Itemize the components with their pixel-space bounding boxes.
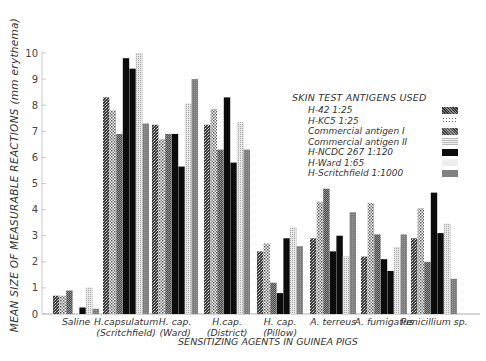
bar	[53, 296, 59, 314]
bar	[178, 167, 184, 314]
x-category-label: Saline	[62, 316, 91, 327]
x-category-labels: SalineH.capsulatum(Scritchfield)H. cap.(…	[62, 316, 468, 338]
bar	[217, 150, 223, 314]
bar-group	[204, 97, 250, 314]
legend-swatch	[442, 107, 458, 114]
bar	[204, 125, 210, 314]
bar	[381, 259, 387, 314]
bar	[350, 212, 356, 314]
y-tick-label: 6	[32, 152, 38, 163]
x-category-label: H. cap.	[159, 316, 192, 327]
x-category-label: H. cap.	[264, 316, 297, 327]
legend-swatch	[442, 159, 458, 166]
legend-label: H-KC5 1:25	[308, 116, 359, 126]
legend: SKIN TEST ANTIGENS USED H-42 1:25H-KC5 1…	[292, 92, 482, 179]
bar	[211, 109, 217, 314]
bar-group	[310, 189, 356, 314]
bar	[277, 293, 283, 314]
bar-group	[103, 53, 149, 314]
bar	[444, 224, 450, 314]
bar	[283, 238, 289, 314]
bar	[93, 309, 99, 314]
bar-group	[257, 228, 303, 314]
bar	[172, 134, 178, 314]
bar	[330, 251, 336, 314]
x-category-label: H.capsulatum	[94, 316, 158, 327]
bar	[152, 125, 158, 314]
bar	[374, 234, 380, 314]
legend-label: H-NCDC 267 1:120	[308, 147, 393, 157]
bar-group	[53, 288, 99, 314]
bar	[244, 150, 250, 314]
bar	[129, 69, 135, 314]
legend-label: H-Ward 1:65	[308, 158, 364, 168]
bar	[264, 244, 270, 314]
bar	[270, 283, 276, 314]
legend-item: H-KC5 1:25	[292, 116, 458, 127]
legend-item: H-NCDC 267 1:120	[292, 147, 458, 158]
legend-item: H-Ward 1:65	[292, 158, 458, 169]
bar	[123, 58, 129, 314]
bar	[387, 271, 393, 314]
bar	[394, 247, 400, 314]
y-tick-label: 9	[32, 74, 38, 85]
y-tick-label: 0	[32, 309, 38, 320]
bar	[401, 234, 407, 314]
legend-item: H-Scritchfield 1:1000	[292, 168, 458, 179]
y-tick-label: 3	[32, 230, 38, 241]
bar	[159, 139, 165, 314]
x-category-label: Penicillium sp.	[401, 316, 468, 327]
legend-label: H-Scritchfield 1:1000	[308, 168, 403, 178]
bar-group	[361, 203, 407, 314]
bar	[224, 97, 230, 314]
x-category-label: A. terreus	[309, 316, 356, 327]
bar	[143, 123, 149, 314]
bar	[418, 208, 424, 314]
bar	[136, 53, 142, 314]
y-tick-label: 10	[25, 48, 38, 59]
bar	[451, 279, 457, 314]
legend-label: Commercial antigen I	[308, 126, 405, 136]
legend-item: H-42 1:25	[292, 105, 458, 116]
y-axis-label: MEAN SIZE OF MEASURABLE REACTIONS (mm er…	[4, 40, 24, 310]
y-tick-label: 1	[32, 282, 38, 293]
y-tick-label: 8	[32, 100, 38, 111]
bar	[437, 233, 443, 314]
bar	[323, 189, 329, 314]
legend-item: Commercial antigen I	[292, 126, 458, 137]
bar	[368, 203, 374, 314]
y-tick-label: 2	[32, 256, 38, 267]
y-tick-label: 7	[32, 126, 38, 137]
bar-group	[411, 193, 457, 314]
bar	[237, 122, 243, 314]
bar	[343, 257, 349, 314]
bar-chart: 012345678910 SalineH.capsulatum(Scritchf…	[0, 0, 486, 361]
bar	[431, 193, 437, 314]
y-tick-label: 5	[32, 178, 38, 189]
bar	[185, 104, 191, 314]
bar	[66, 291, 72, 314]
legend-title: SKIN TEST ANTIGENS USED	[292, 92, 482, 103]
bar	[86, 288, 92, 314]
legend-swatch	[442, 138, 458, 145]
x-category-label: H.cap.	[212, 316, 242, 327]
bar	[110, 110, 116, 314]
legend-label: Commercial antigen II	[308, 137, 407, 147]
legend-swatch	[442, 117, 458, 124]
legend-items: H-42 1:25H-KC5 1:25Commercial antigen IC…	[292, 105, 482, 179]
bar	[297, 246, 303, 314]
bar	[192, 79, 198, 314]
bar	[310, 238, 316, 314]
bar	[116, 134, 122, 314]
bar	[79, 307, 85, 314]
legend-swatch	[442, 170, 458, 177]
bar	[60, 296, 66, 314]
bar	[336, 236, 342, 314]
bar-group	[152, 79, 198, 314]
x-axis-label: SENSITIZING AGENTS IN GUINEA PIGS	[0, 336, 486, 347]
bar	[361, 257, 367, 314]
legend-swatch	[442, 128, 458, 135]
y-tick-label: 4	[32, 204, 38, 215]
legend-item: Commercial antigen II	[292, 137, 458, 148]
bar	[290, 228, 296, 314]
